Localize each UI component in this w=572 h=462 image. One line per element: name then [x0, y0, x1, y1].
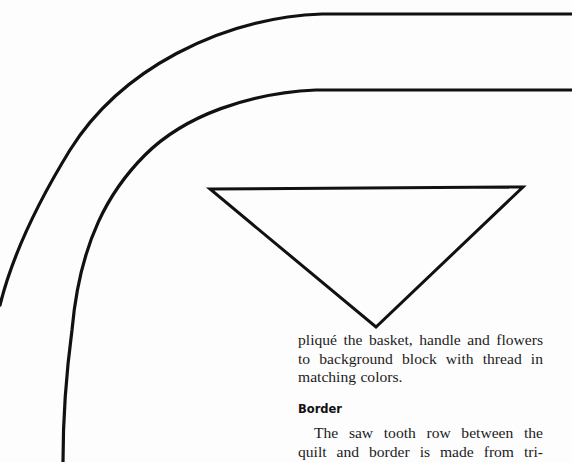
outer-border-curve: [0, 14, 572, 305]
instructions-text: pliqué the basket, handle and flowers to…: [298, 331, 543, 461]
paragraph-line: quilt and border is made from tri-: [298, 443, 543, 462]
paragraph-line: to background block with thread in: [298, 350, 543, 369]
border-paragraph: The saw tooth row between the quilt and …: [298, 424, 543, 461]
paragraph-line: matching colors.: [298, 368, 543, 387]
applique-paragraph: pliqué the basket, handle and flowers to…: [298, 331, 543, 387]
border-heading: Border: [298, 400, 543, 419]
paragraph-line: The saw tooth row between the: [298, 424, 543, 443]
book-page: pliqué the basket, handle and flowers to…: [0, 0, 572, 462]
paragraph-line: pliqué the basket, handle and flowers: [298, 331, 543, 350]
triangle-template: [210, 187, 523, 327]
